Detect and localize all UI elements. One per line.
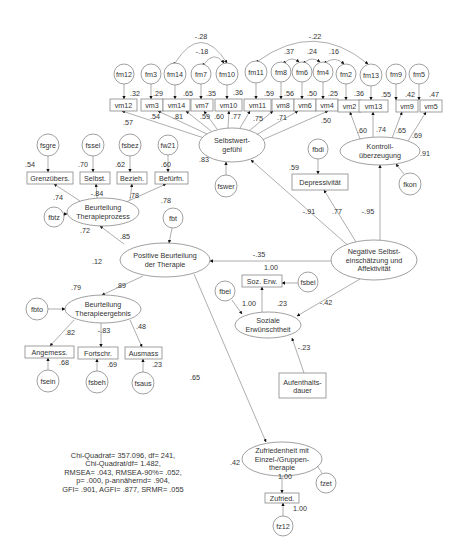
error-label: fm4 — [317, 68, 329, 77]
error-fm13: fm13 — [360, 64, 382, 86]
observed-label: Selbst. — [84, 174, 106, 183]
latent-label: therapie — [269, 463, 295, 472]
observed-label: vm5 — [424, 102, 438, 111]
observed-ausmass: Ausmass — [125, 347, 162, 359]
coefficient-label: .23 — [277, 299, 287, 308]
coefficient-label: .78 — [129, 191, 139, 200]
observed-label: vm7 — [195, 101, 209, 110]
observed-label: vm14 — [168, 101, 186, 110]
coefficient-label: .62 — [115, 160, 125, 169]
latent-bt_ergebnis: BeurteilungTherapieergebnis — [65, 295, 141, 323]
error-label: fsbeh — [88, 378, 106, 387]
coefficient-label: .59 — [264, 89, 274, 98]
observed-zufried_box: Zufried. — [265, 493, 299, 503]
error-label: fsein — [40, 377, 55, 386]
error-fbt: fbt — [163, 208, 183, 228]
error-fm2: fm2 — [336, 64, 356, 84]
coefficient-label: .32 — [130, 89, 140, 98]
coefficient-label: .70 — [78, 160, 88, 169]
coefficient-label: .57 — [123, 118, 133, 127]
observed-label: vm4 — [320, 101, 334, 110]
coefficient-label: -.42 — [320, 298, 332, 307]
observed-label: Soz. Erw. — [247, 277, 277, 286]
error-label: fz12 — [276, 522, 290, 531]
latent-zufrieden: Zufriedenheit mitEinzel-/Gruppen-therapi… — [242, 442, 322, 476]
coefficient-label: .65 — [190, 373, 200, 382]
error-fbei_soz: fbei — [215, 281, 235, 301]
coefficient-label: -.23 — [298, 343, 310, 352]
latent-bt_prozess: BeurteilungTherapieprozess — [67, 198, 139, 226]
coefficient-label: .56 — [284, 89, 294, 98]
observed-selbst: Selbst. — [80, 172, 110, 184]
coefficient-label: .59 — [200, 112, 210, 121]
observed-grenz: Grenzübers. — [27, 172, 73, 184]
observed-vm5: vm5 — [420, 100, 442, 112]
observed-label: Depressivität — [299, 178, 341, 187]
error-label: fbto — [31, 305, 43, 314]
observed-vm9: vm9 — [396, 100, 418, 112]
observed-label: vm13 — [365, 102, 383, 111]
coefficient-label: -.28 — [195, 32, 207, 41]
coefficient-label: .24 — [307, 47, 317, 56]
coefficient-label: .59 — [289, 163, 299, 172]
latent-kontroll: Kontroll-überzeugung — [340, 137, 420, 165]
error-fsein: fsein — [37, 370, 59, 392]
error-label: fm2 — [340, 70, 352, 79]
error-fzet: fzet — [316, 473, 336, 493]
latent-pos_beurt: Positive Beurteilungder Therapie — [120, 243, 210, 277]
latent-label: der Therapie — [145, 260, 186, 269]
coefficient-label: .47 — [429, 90, 439, 99]
coefficient-label: .23 — [152, 360, 162, 369]
observed-vm14: vm14 — [163, 99, 190, 111]
coefficient-label: .74 — [376, 125, 386, 134]
error-label: fbdi — [312, 145, 324, 154]
error-fm8: fm8 — [271, 62, 291, 82]
observed-vm7: vm7 — [191, 99, 213, 111]
coefficient-label: .81 — [173, 112, 183, 121]
coefficient-label: -.91 — [303, 207, 315, 216]
error-label: fm13 — [363, 71, 379, 80]
error-fsbei: fsbei — [298, 272, 318, 292]
error-label: fw21 — [160, 141, 175, 150]
error-label: fbtz — [48, 213, 60, 222]
observed-label: vm9 — [400, 102, 414, 111]
observed-label: Zufried. — [270, 494, 294, 503]
observed-label: Angemess. — [32, 348, 68, 357]
coefficient-label: .72 — [80, 226, 90, 235]
coefficient-label: .71 — [277, 113, 287, 122]
coefficient-label: .69 — [412, 131, 422, 140]
coefficient-label: -.22 — [309, 32, 321, 41]
error-fsbez: fsbez — [119, 134, 141, 156]
coefficient-label: .55 — [381, 90, 391, 99]
error-label: fssel — [86, 141, 101, 150]
coefficient-label: .60 — [161, 160, 171, 169]
error-fswer: fswer — [215, 175, 237, 197]
error-fm4: fm4 — [313, 62, 333, 82]
error-fw21: fw21 — [158, 135, 178, 155]
observed-sozerw_box: Soz. Erw. — [242, 275, 282, 287]
coefficient-label: .25 — [328, 89, 338, 98]
error-label: fm6 — [296, 68, 308, 77]
error-fm11: fm11 — [245, 61, 267, 83]
error-fssel: fssel — [82, 134, 104, 156]
coefficient-label: .68 — [59, 358, 69, 367]
error-fm9: fm9 — [386, 64, 406, 84]
error-label: fm10 — [219, 70, 235, 79]
error-fz12: fz12 — [273, 516, 293, 536]
coefficient-label: .48 — [136, 322, 146, 331]
coefficient-label: .12 — [92, 257, 102, 266]
coefficient-label: 1.00 — [264, 263, 278, 272]
observed-label: vm8 — [276, 101, 290, 110]
error-fbtz: fbtz — [44, 207, 64, 227]
coefficient-label: .91 — [420, 149, 430, 158]
error-label: fm9 — [390, 70, 402, 79]
coefficient-label: .29 — [153, 89, 163, 98]
observed-label: Grenzübers. — [30, 174, 70, 183]
observed-label: Bezieh. — [120, 174, 144, 183]
observed-label: Befürfn. — [159, 174, 184, 183]
latent-label: Affektivität — [357, 264, 390, 273]
coefficient-label: .50 — [307, 89, 317, 98]
coefficient-label: .82 — [65, 328, 75, 337]
coefficient-label: -.83 — [98, 326, 110, 335]
error-fm12: fm12 — [114, 64, 134, 84]
